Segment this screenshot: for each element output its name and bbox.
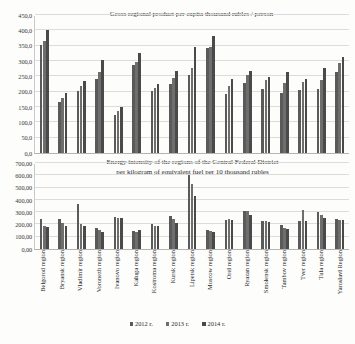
top-chart-y-axis: 0,050,0100,0150,0200,0250,0300,0350,0400… bbox=[0, 16, 32, 154]
category-label: Yaroslavl Region bbox=[331, 250, 350, 316]
bar-group bbox=[335, 16, 344, 153]
bar bbox=[286, 229, 289, 249]
legend-label: 2013 г. bbox=[171, 321, 189, 327]
y-tick-label: 200,00 bbox=[15, 222, 32, 228]
y-tick-label: 400,0 bbox=[18, 28, 32, 34]
bar-group bbox=[58, 16, 67, 153]
bar bbox=[249, 215, 252, 249]
bar bbox=[305, 79, 308, 153]
bar-group bbox=[280, 16, 289, 153]
bar-group bbox=[243, 164, 252, 249]
bottom-chart-plot bbox=[34, 164, 349, 250]
bar bbox=[342, 220, 345, 249]
bar-group bbox=[151, 164, 160, 249]
bar-group bbox=[77, 164, 86, 249]
bar bbox=[249, 71, 252, 153]
legend-label: 2012 г. bbox=[135, 321, 153, 327]
chart-page: Gross regional product per capita thousa… bbox=[0, 0, 355, 344]
bar bbox=[305, 221, 308, 250]
y-tick-label: 100,00 bbox=[15, 235, 32, 241]
bar-group bbox=[114, 16, 123, 153]
bar-group bbox=[261, 164, 270, 249]
bar-group bbox=[169, 16, 178, 153]
bar-group bbox=[77, 16, 86, 153]
bar-group bbox=[188, 164, 197, 249]
chart-energy-intensity: Energy intensity of the regions of the C… bbox=[0, 158, 355, 258]
bar bbox=[65, 93, 68, 153]
category-label: Voronezh region bbox=[90, 250, 109, 316]
bar bbox=[194, 47, 197, 153]
bar bbox=[323, 218, 326, 249]
legend-item[interactable]: 2014 г. bbox=[202, 321, 225, 327]
category-label: Belgorod region bbox=[34, 250, 53, 316]
bar-group bbox=[225, 16, 234, 153]
category-label: Smolensk region bbox=[256, 250, 275, 316]
legend-swatch-icon bbox=[166, 322, 169, 325]
category-label: Ryazan region bbox=[238, 250, 257, 316]
bar bbox=[120, 107, 123, 153]
bar bbox=[268, 77, 271, 153]
legend-label: 2014 г. bbox=[208, 321, 226, 327]
bar bbox=[46, 30, 49, 153]
category-label: Tula region bbox=[312, 250, 331, 316]
bar bbox=[212, 36, 215, 153]
category-label: Tver region bbox=[293, 250, 312, 316]
bar-group bbox=[40, 16, 49, 153]
bar bbox=[194, 196, 197, 249]
bar-group bbox=[335, 164, 344, 249]
bottom-chart-bars bbox=[35, 164, 349, 249]
category-label: Kostroma region bbox=[145, 250, 164, 316]
bar bbox=[101, 60, 104, 153]
bar bbox=[286, 72, 289, 153]
y-tick-label: 300,0 bbox=[18, 59, 32, 65]
bar bbox=[231, 79, 234, 153]
legend-item[interactable]: 2012 г. bbox=[130, 321, 153, 327]
y-tick-label: 600,00 bbox=[15, 173, 32, 179]
bar bbox=[83, 226, 86, 249]
category-label: Bryansk region bbox=[53, 250, 72, 316]
legend-swatch-icon bbox=[130, 322, 133, 325]
bar-group bbox=[132, 16, 141, 153]
bar bbox=[323, 68, 326, 153]
bar bbox=[342, 57, 345, 153]
chart-legend: 2012 г.2013 г.2014 г. bbox=[0, 319, 355, 329]
bar-group bbox=[261, 16, 270, 153]
bar-group bbox=[206, 164, 215, 249]
bar-group bbox=[206, 16, 215, 153]
legend-item[interactable]: 2013 г. bbox=[166, 321, 189, 327]
bar-group bbox=[169, 164, 178, 249]
bar bbox=[157, 226, 160, 249]
y-tick-label: 400,00 bbox=[15, 198, 32, 204]
chart-gross-regional-product: Gross regional product per capita thousa… bbox=[0, 8, 355, 158]
bar-group bbox=[151, 16, 160, 153]
bar-group bbox=[243, 16, 252, 153]
bar-group bbox=[298, 16, 307, 153]
category-label: Orel region bbox=[219, 250, 238, 316]
bar bbox=[83, 81, 86, 153]
category-label: Moscow region bbox=[201, 250, 220, 316]
bar-group bbox=[317, 16, 326, 153]
category-label: Vladimir region bbox=[71, 250, 90, 316]
bar bbox=[101, 232, 104, 249]
bar-group bbox=[40, 164, 49, 249]
bar-group bbox=[132, 164, 141, 249]
y-tick-label: 250,0 bbox=[18, 74, 32, 80]
y-tick-label: 150,0 bbox=[18, 105, 32, 111]
category-label: Kaluga region bbox=[127, 250, 146, 316]
bar-group bbox=[317, 164, 326, 249]
category-axis-labels: Belgorod regionBryansk regionVladimir re… bbox=[34, 250, 349, 316]
bar-group bbox=[58, 164, 67, 249]
bar bbox=[138, 53, 141, 153]
bar-group bbox=[95, 164, 104, 249]
bar bbox=[231, 220, 234, 249]
y-tick-label: 100,0 bbox=[18, 120, 32, 126]
bar bbox=[120, 218, 123, 249]
y-tick-label: 200,0 bbox=[18, 90, 32, 96]
bar-group bbox=[280, 164, 289, 249]
bar-group bbox=[188, 16, 197, 153]
bar bbox=[138, 230, 141, 249]
bar bbox=[268, 222, 271, 249]
bar bbox=[212, 232, 215, 249]
category-label: Tambov region bbox=[275, 250, 294, 316]
bar-group bbox=[298, 164, 307, 249]
